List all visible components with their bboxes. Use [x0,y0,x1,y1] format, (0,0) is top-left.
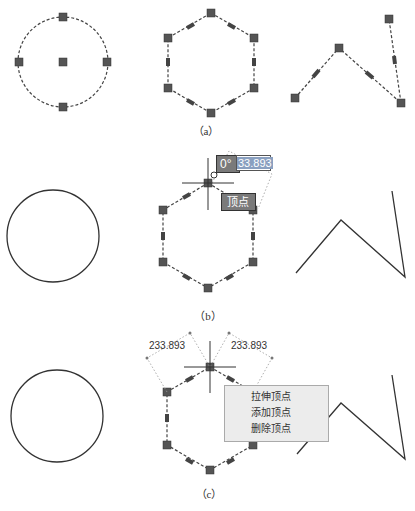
drawing-canvas[interactable] [0,0,415,511]
length-input[interactable]: 33.893 [236,155,271,171]
menu-item-delete-vertex[interactable]: 删除顶点 [225,421,328,437]
panel-a-polyline-selected[interactable] [291,15,405,107]
panel-b-polyline[interactable] [296,191,405,277]
caption-a: （a） [186,122,226,138]
vertex-context-menu: 拉伸顶点 添加顶点 删除顶点 [224,385,329,442]
dimension-left: 233.893 [149,340,185,351]
panel-a-circle-selected[interactable] [15,13,111,111]
menu-item-stretch-vertex[interactable]: 拉伸顶点 [225,389,328,405]
menu-item-add-vertex[interactable]: 添加顶点 [225,405,328,421]
caption-c: （c） [189,485,229,501]
dimension-right: 233.893 [231,340,267,351]
panel-b-circle[interactable] [7,190,99,282]
vertex-tooltip: 顶点 [221,193,256,211]
panel-c-circle[interactable] [11,370,103,462]
caption-b: （b） [188,307,228,323]
length-input-value: 33.893 [237,157,273,169]
panel-a-hexagon-selected[interactable] [164,9,258,117]
